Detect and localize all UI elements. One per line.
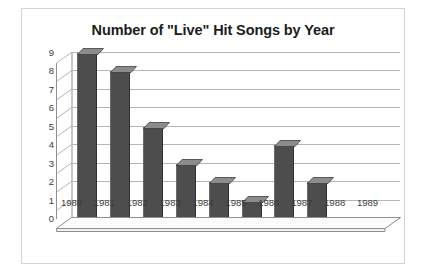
bar-column <box>104 52 137 219</box>
bar-top-face <box>274 140 300 146</box>
y-tick-label: 2 <box>38 176 54 187</box>
bar-column <box>137 52 170 219</box>
x-tick-label: 1989 <box>348 197 388 208</box>
y-tick-label: 5 <box>38 120 54 131</box>
floor-3d <box>56 217 400 239</box>
bar-column <box>203 52 236 219</box>
axis-side-wall-3d <box>56 52 72 218</box>
y-tick-label: 8 <box>38 65 54 76</box>
y-tick-label: 9 <box>38 47 54 58</box>
bar <box>77 53 97 219</box>
bar-top-face <box>77 48 103 54</box>
y-tick-label: 3 <box>38 157 54 168</box>
y-tick-label: 0 <box>38 213 54 224</box>
bar-column <box>71 52 104 219</box>
bar-top-face <box>176 159 202 165</box>
bar-column <box>236 52 269 219</box>
bar-top-face <box>110 66 136 72</box>
x-axis-tick-labels: 1980198119821983198419851986198719881989 <box>55 197 395 213</box>
bar-column <box>301 52 334 219</box>
bar-column <box>367 52 400 219</box>
y-axis-tick-labels: 0123456789 <box>38 52 54 218</box>
bar-column <box>268 52 301 219</box>
bar-column <box>170 52 203 219</box>
chart-title: Number of "Live" Hit Songs by Year <box>22 22 404 38</box>
plot-area: 0123456789 <box>38 52 400 247</box>
chart-frame: Number of "Live" Hit Songs by Year 01234… <box>21 8 405 264</box>
y-tick-label: 6 <box>38 102 54 113</box>
bar-column <box>334 52 367 219</box>
bar-top-face <box>307 177 333 183</box>
y-tick-label: 4 <box>38 139 54 150</box>
bar-top-face <box>209 177 235 183</box>
y-tick-label: 7 <box>38 83 54 94</box>
bar-series <box>71 52 400 219</box>
bar-top-face <box>143 122 169 128</box>
